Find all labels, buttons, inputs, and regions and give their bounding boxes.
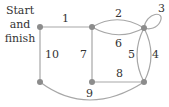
node-a-start <box>37 24 43 30</box>
edge-label-9: 9 <box>86 87 93 100</box>
edge-label-4: 4 <box>152 48 159 61</box>
node-c <box>141 25 147 31</box>
edge-label-5: 5 <box>128 48 135 61</box>
node-d <box>37 79 43 85</box>
edge-label-6: 6 <box>115 37 122 50</box>
edge-6 <box>92 27 144 35</box>
node-b <box>89 24 95 30</box>
graph-diagram: 1 2 3 4 5 6 7 8 9 10 <box>0 0 169 107</box>
node-f <box>141 79 147 85</box>
edge-label-10: 10 <box>45 48 59 61</box>
edge-label-3: 3 <box>158 2 165 15</box>
edge-label-7: 7 <box>80 48 87 61</box>
node-e <box>89 79 95 85</box>
edge-label-2: 2 <box>115 7 122 20</box>
edge-4 <box>144 28 151 82</box>
edge-label-8: 8 <box>116 67 123 80</box>
edge-label-1: 1 <box>62 12 69 25</box>
edge-5 <box>137 28 144 82</box>
edge-2 <box>92 20 144 28</box>
